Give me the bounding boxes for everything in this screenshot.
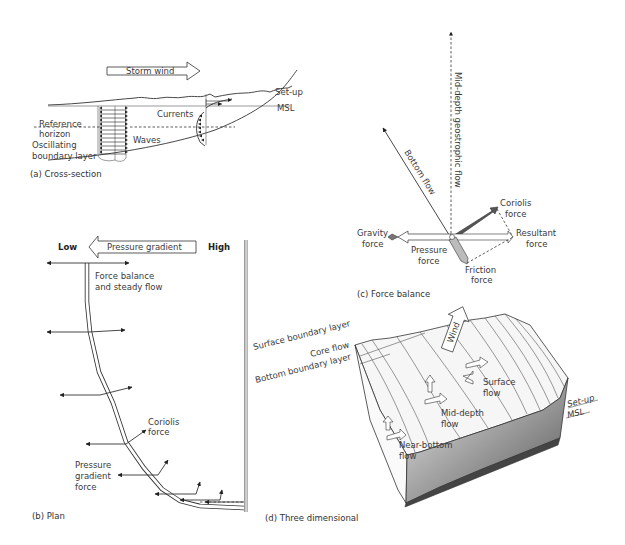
origin-point: [450, 235, 455, 240]
high-label: High: [208, 242, 230, 252]
pgf-label-1: Pressure: [75, 460, 111, 470]
reference-label-2: horizon: [39, 129, 71, 139]
coast-wall: [244, 240, 248, 512]
pressure-label-1: Pressure: [411, 245, 447, 255]
panel-d-three-dimensional: Wind Surface boundary layer Core flow Bo…: [252, 303, 598, 523]
pressure-gradient-arrow: Pressure gradient: [89, 236, 196, 258]
sea-surface: [48, 86, 292, 105]
resultant-label-1: Resultant: [516, 228, 557, 238]
force-balance-label-2: and steady flow: [95, 282, 163, 292]
coriolis-label-2: force: [505, 209, 526, 219]
friction-resultant-dash: [467, 237, 513, 263]
coriolis-label-1: Coriolis: [148, 417, 180, 427]
coriolis-label-1: Coriolis: [500, 198, 532, 208]
panel-b-plan: Low High Pressure gradient: [32, 236, 248, 521]
waves-label: Waves: [133, 135, 161, 145]
panel-c-caption: (c) Force balance: [357, 289, 430, 299]
pgf-label-2: gradient: [75, 471, 111, 481]
pressure-label-2: force: [418, 256, 439, 266]
storm-surge-figure: Storm wind: [0, 0, 625, 545]
setup-label: Set-up: [275, 87, 303, 97]
force-balance-label-1: Force balance: [95, 271, 154, 281]
storm-wind-arrow: Storm wind: [107, 62, 200, 80]
surface-flow-label-1: Surface: [483, 377, 515, 387]
friction-label-1: Friction: [465, 265, 496, 275]
low-label: Low: [58, 242, 77, 252]
bottom-bl-label: Bottom boundary layer: [254, 351, 352, 385]
oscillating-label-1: Oscillating: [32, 140, 77, 150]
near-bottom-label-1: Near-bottom: [399, 440, 453, 450]
currents-label: Currents: [157, 109, 194, 119]
panel-c-force-balance: Mid-depth geostrophic flow Bottom flow C…: [357, 32, 557, 299]
msl-label: MSL: [277, 103, 295, 113]
panel-b-caption: (b) Plan: [32, 511, 65, 521]
gravity-force-arrow: [388, 234, 398, 240]
current-profile: [197, 98, 232, 146]
panel-a-cross-section: Storm wind: [30, 62, 303, 179]
mid-depth-flow-label-1: Mid-depth: [441, 408, 484, 418]
storm-wind-label: Storm wind: [126, 66, 174, 76]
pressure-gradient-label: Pressure gradient: [107, 242, 182, 252]
surface-flow-label-2: flow: [483, 388, 501, 398]
oscillating-label-2: boundary layer: [32, 151, 97, 161]
mid-depth-flow-label-2: flow: [441, 419, 459, 429]
panel-a-caption: (a) Cross-section: [30, 169, 102, 179]
panel-d-caption: (d) Three dimensional: [265, 513, 358, 523]
near-bottom-label-2: flow: [399, 451, 417, 461]
friction-force-arrow: [449, 237, 468, 264]
resultant-label-2: force: [526, 239, 547, 249]
friction-label-2: force: [471, 275, 492, 285]
mid-depth-label: Mid-depth geostrophic flow: [453, 72, 463, 188]
coriolis-label-2: force: [148, 427, 169, 437]
gravity-label-1: Gravity: [357, 228, 388, 238]
bottom-flow-arrow: [383, 128, 451, 238]
gravity-label-2: force: [362, 239, 383, 249]
bottom-flow-label: Bottom flow: [402, 148, 438, 197]
reference-label-1: Reference: [39, 119, 82, 129]
pressure-force-arrow: [398, 231, 451, 243]
pgf-label-3: force: [75, 482, 96, 492]
